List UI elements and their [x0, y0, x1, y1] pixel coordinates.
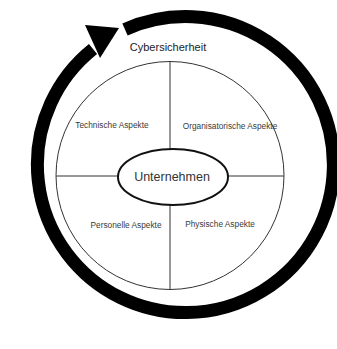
outer-label: Cybersicherheit [130, 42, 206, 53]
quadrant-label-organizational: Organisatorische Aspekte [183, 122, 278, 130]
center-label: Unternehmen [134, 171, 210, 184]
quadrant-label-technical: Technische Aspekte [75, 121, 148, 129]
quadrant-label-personnel: Personelle Aspekte [90, 221, 161, 229]
quadrant-label-physical: Physische Aspekte [185, 220, 255, 228]
